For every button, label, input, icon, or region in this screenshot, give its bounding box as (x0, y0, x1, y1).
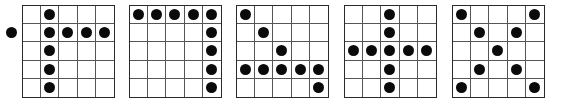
grid-cell (78, 42, 96, 60)
dot-marker (44, 82, 55, 93)
grid-cell (363, 61, 381, 79)
grid-cell (345, 24, 363, 42)
grid-cell (471, 79, 489, 97)
grid-cell (130, 6, 148, 24)
dot-marker (169, 9, 180, 20)
dot-marker (529, 82, 540, 93)
grid-cell (453, 42, 471, 60)
grid-cell (345, 42, 363, 60)
grid-cell (453, 24, 471, 42)
dot-marker (44, 45, 55, 56)
dot-marker (258, 27, 269, 38)
grid-cell (273, 79, 291, 97)
grid-panel-3 (236, 5, 329, 98)
grid-cell (41, 24, 59, 42)
dot-marker (511, 27, 522, 38)
grid-cell (526, 61, 544, 79)
grid-cell (526, 24, 544, 42)
grid-cell (345, 61, 363, 79)
dot-marker (99, 27, 110, 38)
grid-cell (273, 61, 291, 79)
grid-cell (166, 79, 184, 97)
dot-marker (313, 82, 324, 93)
grid-cell (203, 42, 221, 60)
dot-marker (81, 27, 92, 38)
grid-cell (381, 79, 399, 97)
grid-cell (508, 79, 526, 97)
grid-panel-4 (344, 5, 437, 98)
dot-marker (206, 27, 217, 38)
grid-cell (59, 6, 77, 24)
grid-cell (400, 79, 418, 97)
grid-cell (471, 24, 489, 42)
grid-cell (526, 6, 544, 24)
grid-cell (471, 6, 489, 24)
dot-marker (188, 9, 199, 20)
grid-panel-5 (452, 5, 545, 98)
dot-marker (295, 64, 306, 75)
grid-cell (255, 79, 273, 97)
grid-cell (23, 42, 41, 60)
grid-cell (453, 79, 471, 97)
grid-cell (508, 61, 526, 79)
grid-cell (489, 79, 507, 97)
grid-cell (363, 24, 381, 42)
grid-cell (166, 61, 184, 79)
grid-cell (526, 42, 544, 60)
grid-cell (41, 79, 59, 97)
grid-cell (78, 24, 96, 42)
grid-cell (185, 61, 203, 79)
dot-marker (206, 82, 217, 93)
grid-cell (526, 79, 544, 97)
grid-cell (292, 6, 310, 24)
grid-cell (203, 61, 221, 79)
grid-cell (185, 6, 203, 24)
grid-cell (310, 6, 328, 24)
dot-marker (258, 64, 269, 75)
grid-cell (96, 24, 114, 42)
dot-marker (384, 27, 395, 38)
dot-marker (456, 82, 467, 93)
dot-marker (403, 45, 414, 56)
grid-cell (96, 42, 114, 60)
dot-marker (421, 45, 432, 56)
grid-panel-1 (22, 5, 115, 98)
grid-cell (508, 6, 526, 24)
grid-cell (23, 61, 41, 79)
grid-cell (148, 61, 166, 79)
grid-panel-2 (129, 5, 222, 98)
grid-cell (41, 42, 59, 60)
grid-cell (148, 24, 166, 42)
grid-cell (255, 24, 273, 42)
grid-cell (255, 61, 273, 79)
dot-marker (276, 45, 287, 56)
grid-cell (273, 24, 291, 42)
grid-cell (166, 42, 184, 60)
grid-cell (310, 79, 328, 97)
grid-cell (400, 42, 418, 60)
grid-cell (166, 6, 184, 24)
grid-cell (363, 79, 381, 97)
grid-cell (185, 24, 203, 42)
grid-cell (273, 42, 291, 60)
grid-cell (255, 42, 273, 60)
grid-cell (310, 24, 328, 42)
grid-cell (453, 61, 471, 79)
grid-cell (130, 24, 148, 42)
grid-cell (418, 24, 436, 42)
grid-cell (381, 6, 399, 24)
dot-marker (384, 64, 395, 75)
grid-cell (96, 6, 114, 24)
grid-cell (41, 6, 59, 24)
grid-cell (345, 6, 363, 24)
grid-cell (23, 79, 41, 97)
dot-marker (384, 9, 395, 20)
dot-marker (206, 45, 217, 56)
grid-cell (418, 61, 436, 79)
grid-cell (489, 24, 507, 42)
grid-cell (237, 79, 255, 97)
dot-marker (206, 64, 217, 75)
dot-marker-outside (6, 27, 17, 38)
dot-marker (44, 27, 55, 38)
grid-cell (237, 61, 255, 79)
